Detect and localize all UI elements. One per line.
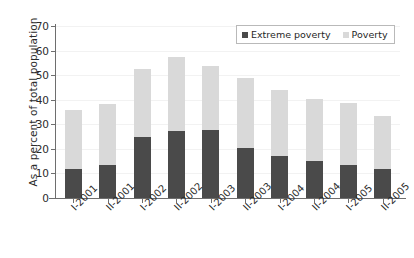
legend-item[interactable]: Extreme poverty [242, 29, 331, 40]
y-axis-tick-label: 0 [42, 192, 49, 204]
bar-segment-poverty[interactable] [340, 103, 357, 164]
legend-label: Extreme poverty [251, 29, 331, 40]
gridline [56, 75, 400, 76]
y-axis-tick-label: 30 [36, 118, 49, 130]
y-axis-tick-label: 20 [36, 143, 49, 155]
stacked-bar-chart: As a percent of total population 7060504… [0, 0, 414, 258]
y-axis-tick-mark [51, 51, 56, 52]
bar-stack[interactable] [237, 78, 254, 198]
y-axis-tick-mark [51, 26, 56, 27]
bar-stack[interactable] [99, 104, 116, 198]
y-axis-tick-mark [51, 198, 56, 199]
bar-segment-extreme-poverty[interactable] [237, 148, 254, 198]
bar-stack[interactable] [65, 110, 82, 198]
bar-segment-poverty[interactable] [237, 78, 254, 148]
bar-segment-poverty[interactable] [202, 66, 219, 130]
y-axis-tick-mark [51, 124, 56, 125]
plot-area: 706050403020100 [56, 26, 400, 198]
y-axis-tick-mark [51, 100, 56, 101]
legend-item[interactable]: Poverty [343, 29, 388, 40]
y-axis-tick-label: 70 [36, 20, 49, 32]
bar-segment-extreme-poverty[interactable] [202, 130, 219, 198]
bar-segment-poverty[interactable] [168, 57, 185, 131]
bar-segment-extreme-poverty[interactable] [168, 131, 185, 198]
bar-stack[interactable] [134, 69, 151, 198]
y-axis-tick-label: 60 [36, 45, 49, 57]
bar-stack[interactable] [306, 99, 323, 198]
gridline [56, 51, 400, 52]
bar-stack[interactable] [271, 90, 288, 198]
legend-swatch [343, 32, 349, 38]
legend-label: Poverty [352, 29, 388, 40]
bar-segment-poverty[interactable] [271, 90, 288, 156]
bar-segment-poverty[interactable] [99, 104, 116, 165]
legend-swatch [242, 32, 248, 38]
y-axis-tick-mark [51, 173, 56, 174]
bar-segment-extreme-poverty[interactable] [134, 137, 151, 198]
bar-segment-extreme-poverty[interactable] [99, 165, 116, 198]
y-axis-tick-mark [51, 75, 56, 76]
chart-legend: Extreme povertyPoverty [236, 25, 395, 44]
bar-stack[interactable] [340, 103, 357, 198]
y-axis-tick-label: 50 [36, 69, 49, 81]
bar-segment-poverty[interactable] [306, 99, 323, 161]
bar-stack[interactable] [202, 66, 219, 198]
bar-stack[interactable] [374, 116, 391, 198]
bar-segment-extreme-poverty[interactable] [306, 161, 323, 198]
bar-segment-extreme-poverty[interactable] [271, 156, 288, 198]
gridline [56, 100, 400, 101]
y-axis-tick-mark [51, 149, 56, 150]
y-axis-tick-label: 40 [36, 94, 49, 106]
bar-stack[interactable] [168, 57, 185, 198]
bar-segment-poverty[interactable] [65, 110, 82, 169]
bar-segment-poverty[interactable] [134, 69, 151, 137]
y-axis-tick-label: 10 [36, 167, 49, 179]
bar-segment-poverty[interactable] [374, 116, 391, 168]
